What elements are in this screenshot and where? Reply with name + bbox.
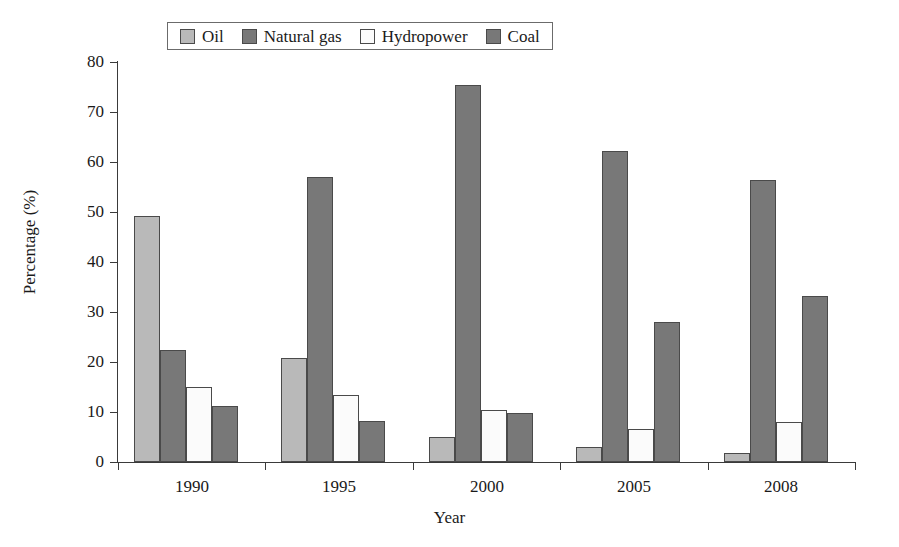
- bar-natural-gas-2000[interactable]: [455, 85, 481, 462]
- y-axis-tick: [110, 462, 118, 463]
- legend-label: Oil: [202, 28, 224, 45]
- y-axis-tick: [110, 412, 118, 413]
- bar-natural-gas-1990[interactable]: [160, 350, 186, 462]
- x-axis-tick: [560, 462, 561, 470]
- legend-entry-hydropower[interactable]: Hydropower: [360, 28, 468, 45]
- x-axis-tick: [265, 462, 266, 470]
- legend-swatch-icon: [242, 29, 257, 44]
- y-axis-tick-label: 80: [58, 53, 104, 70]
- x-axis-title: Year: [0, 508, 899, 528]
- y-axis-tick: [110, 112, 118, 113]
- y-axis-tick-label: 60: [58, 153, 104, 170]
- y-axis-tick: [110, 362, 118, 363]
- legend-entry-coal[interactable]: Coal: [486, 28, 540, 45]
- x-axis-tick-label: 1990: [132, 477, 252, 497]
- x-axis-tick-label: 2000: [427, 477, 547, 497]
- bar-chart: OilNatural gasHydropowerCoal 01020304050…: [0, 0, 899, 547]
- bar-oil-2005[interactable]: [576, 447, 602, 462]
- legend-label: Hydropower: [382, 28, 468, 45]
- bar-oil-1990[interactable]: [134, 216, 160, 462]
- y-axis-tick: [110, 162, 118, 163]
- x-axis-tick: [708, 462, 709, 470]
- y-axis-tick-label: 20: [58, 353, 104, 370]
- bar-coal-1990[interactable]: [212, 406, 238, 462]
- bar-coal-2008[interactable]: [802, 296, 828, 462]
- bar-hydropower-1990[interactable]: [186, 387, 212, 462]
- legend-entry-natural-gas[interactable]: Natural gas: [242, 28, 342, 45]
- x-axis-tick: [413, 462, 414, 470]
- bar-hydropower-2005[interactable]: [628, 429, 654, 462]
- y-axis-tick: [110, 62, 118, 63]
- legend-swatch-icon: [180, 29, 195, 44]
- y-axis-title: Percentage (%): [20, 152, 40, 332]
- x-axis-tick-label: 2005: [574, 477, 694, 497]
- y-axis-tick: [110, 262, 118, 263]
- bars-layer: [118, 62, 855, 462]
- x-axis-tick-label: 2008: [721, 477, 841, 497]
- legend-swatch-icon: [360, 29, 375, 44]
- x-axis-tick: [118, 462, 119, 470]
- y-axis-tick: [110, 312, 118, 313]
- y-axis-tick-label: 40: [58, 253, 104, 270]
- bar-hydropower-2008[interactable]: [776, 422, 802, 462]
- x-axis-line: [117, 462, 856, 463]
- bar-oil-2008[interactable]: [724, 453, 750, 463]
- x-axis-tick-label: 1995: [279, 477, 399, 497]
- legend-label: Natural gas: [264, 28, 342, 45]
- bar-natural-gas-2005[interactable]: [602, 151, 628, 462]
- legend-swatch-icon: [486, 29, 501, 44]
- y-axis-tick-label: 70: [58, 103, 104, 120]
- y-axis-tick: [110, 212, 118, 213]
- bar-oil-1995[interactable]: [281, 358, 307, 462]
- bar-coal-2005[interactable]: [654, 322, 680, 462]
- bar-hydropower-2000[interactable]: [481, 410, 507, 462]
- y-axis-tick-label: 10: [58, 403, 104, 420]
- legend-entry-oil[interactable]: Oil: [180, 28, 224, 45]
- chart-legend: OilNatural gasHydropowerCoal: [167, 22, 553, 50]
- y-axis-tick-label: 30: [58, 303, 104, 320]
- bar-oil-2000[interactable]: [429, 437, 455, 462]
- bar-natural-gas-1995[interactable]: [307, 177, 333, 462]
- bar-natural-gas-2008[interactable]: [750, 180, 776, 463]
- y-axis-tick-label: 0: [58, 453, 104, 470]
- legend-label: Coal: [508, 28, 540, 45]
- y-axis-tick-label: 50: [58, 203, 104, 220]
- x-axis-tick-end: [855, 462, 856, 470]
- bar-coal-2000[interactable]: [507, 413, 533, 462]
- bar-coal-1995[interactable]: [359, 421, 385, 463]
- bar-hydropower-1995[interactable]: [333, 395, 359, 462]
